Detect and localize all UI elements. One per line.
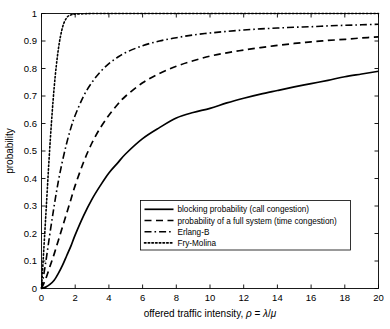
x-tick-label: 8 [174, 292, 179, 303]
y-tick-label: 0.2 [24, 228, 37, 239]
y-tick-label: 0.4 [24, 173, 37, 184]
y-tick-label: 0.3 [24, 200, 37, 211]
x-axis-label: offered traffic intensity, ρ = λ/μ [144, 308, 277, 319]
legend-entry-label: probability of a full system (time conge… [178, 217, 338, 226]
y-tick-label: 0.6 [24, 118, 37, 129]
y-tick-label: 0.8 [24, 63, 37, 74]
x-tick-label: 20 [373, 292, 384, 303]
line-chart: 02468101214161820 00.10.20.30.40.50.60.7… [0, 0, 390, 329]
y-tick-label: 0.7 [24, 90, 37, 101]
y-axis-label: probability [4, 128, 15, 174]
y-tick-label: 0.9 [24, 35, 37, 46]
x-tick-label: 6 [140, 292, 145, 303]
y-tick-label: 0.5 [24, 145, 37, 156]
legend-entry-label: blocking probability (call congestion) [178, 205, 310, 214]
x-tick-label: 10 [205, 292, 216, 303]
x-tick-label: 14 [272, 292, 283, 303]
x-tick-label: 0 [39, 292, 44, 303]
x-tick-label: 16 [306, 292, 317, 303]
x-tick-label: 12 [238, 292, 249, 303]
y-tick-label: 0 [32, 283, 37, 294]
y-tick-label: 1 [32, 8, 37, 19]
x-tick-label: 4 [106, 292, 111, 303]
x-tick-label: 18 [340, 292, 351, 303]
legend-entry-label: Erlang-B [178, 228, 210, 237]
x-tick-label: 2 [73, 292, 78, 303]
chart-legend[interactable]: blocking probability (call congestion)pr… [141, 201, 351, 251]
chart-figure: 02468101214161820 00.10.20.30.40.50.60.7… [0, 0, 390, 329]
legend-entry-label: Fry-Molina [178, 239, 217, 248]
y-tick-label: 0.1 [24, 255, 37, 266]
